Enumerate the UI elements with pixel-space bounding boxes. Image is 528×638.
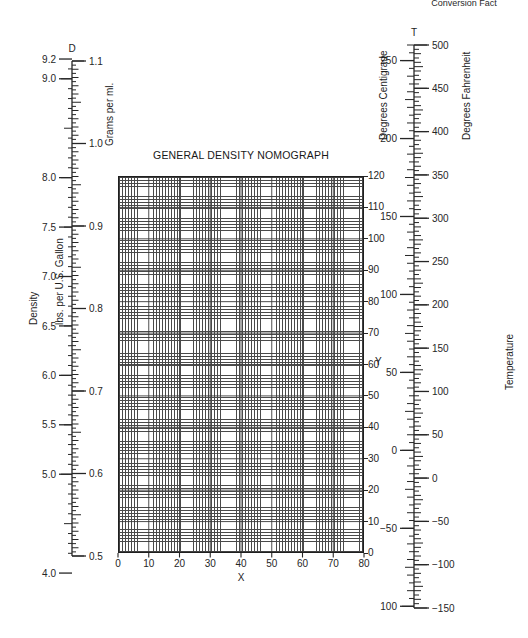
y-axis-tick: [364, 301, 368, 302]
scale-tick-label: 1.0: [89, 138, 103, 149]
scale-tick-label: 5.5: [42, 419, 56, 430]
scale-tick-label: 30: [205, 558, 217, 569]
scale-tick-label: 40: [235, 558, 247, 569]
y-axis-tick: [364, 238, 368, 239]
y-axis-tick-label: 20: [368, 485, 379, 495]
scale-tick-label: 0.7: [89, 386, 103, 397]
density-right-unit-label: Grams per ml.: [104, 83, 115, 146]
y-axis-tick: [364, 333, 368, 334]
y-axis-tick: [364, 364, 368, 365]
density-key-label: D: [60, 44, 84, 54]
scale-tick-label: 0.8: [89, 303, 103, 314]
scale-tick-label: −100: [432, 559, 455, 570]
scale-tick-label: 10: [143, 558, 155, 569]
x-axis-label: X: [118, 573, 364, 583]
scale-tick-label: 0: [432, 473, 438, 484]
scale-tick-label: 0: [115, 558, 121, 569]
scale-tick-label: 50: [432, 429, 444, 440]
scale-tick-label: 9.2: [42, 54, 56, 65]
scale-tick-label: 200: [432, 299, 449, 310]
scale-tick-label: 6.0: [42, 370, 56, 381]
scale-tick-label: −100: [380, 601, 397, 612]
y-axis-tick: [364, 521, 368, 522]
y-axis-tick: [364, 427, 368, 428]
y-axis-tick-label: 80: [368, 297, 379, 307]
scale-tick-label: 450: [432, 83, 449, 94]
density-axis-label: Density: [28, 292, 39, 325]
scale-tick-label: 1.1: [89, 56, 103, 67]
scale-tick-label: 150: [432, 343, 449, 354]
scale-tick-label: 0.6: [89, 468, 103, 479]
plot-grid[interactable]: [118, 176, 364, 553]
scale-tick-label: 0.9: [89, 221, 103, 232]
scale-tick-label: 50: [266, 558, 278, 569]
y-axis-tick: [364, 395, 368, 396]
y-axis-tick-label: 30: [368, 454, 379, 464]
scale-tick-label: 300: [432, 213, 449, 224]
scale-tick-label: 250: [432, 256, 449, 267]
y-axis-tick-label: 10: [368, 517, 379, 527]
scale-tick-label: 100: [432, 386, 449, 397]
y-axis-tick: [364, 553, 368, 554]
scale-tick-label: 0: [391, 445, 397, 456]
density-left-unit-label: lbs. per U.S. Gallon: [54, 238, 65, 325]
y-axis-tick: [364, 207, 368, 208]
scale-tick-label: 60: [297, 558, 309, 569]
y-axis-tick-label: 40: [368, 422, 379, 432]
scale-tick-label: 80: [358, 558, 370, 569]
scale-tick-label: 4.0: [42, 568, 56, 579]
temperature-left-unit-label: Degrees Centigrade: [378, 51, 389, 141]
scale-tick-label: 150: [380, 211, 397, 222]
y-axis-tick-label: 70: [368, 328, 379, 338]
scale-tick-label: 9.0: [42, 73, 56, 84]
y-axis-tick: [364, 458, 368, 459]
scale-tick-label: −50: [380, 523, 397, 534]
scale-tick-label: 70: [328, 558, 340, 569]
scale-tick-label: 8.0: [42, 172, 56, 183]
temperature-key-label: T: [402, 28, 426, 38]
scale-tick-label: 7.5: [42, 222, 56, 233]
y-axis-tick-label: 90: [368, 265, 379, 275]
scale-tick-label: 5.0: [42, 469, 56, 480]
scale-tick-label: 350: [432, 170, 449, 181]
y-axis-tick-label: 50: [368, 391, 379, 401]
scale-tick-label: 500: [432, 40, 449, 51]
y-axis-tick: [364, 176, 368, 177]
scale-tick-label: 50: [386, 367, 398, 378]
running-head: Conversion Fact: [400, 0, 528, 7]
scale-tick-label: 400: [432, 126, 449, 137]
y-axis-tick: [364, 490, 368, 491]
nomograph-page: Conversion Fact 0.50.60.70.80.91.01.14.0…: [0, 0, 528, 638]
temperature-scale-svg: −150−100−5005010015020025030035040045050…: [380, 30, 510, 630]
y-axis-tick-label: 0: [368, 548, 374, 558]
scale-tick-label: 20: [174, 558, 186, 569]
temperature-axis-label: Temperature: [504, 334, 515, 390]
scale-tick-label: 100: [380, 289, 397, 300]
scale-tick-label: −150: [432, 603, 455, 614]
temperature-right-unit-label: Degrees Fahrenheit: [461, 52, 472, 140]
y-axis-tick: [364, 270, 368, 271]
chart-title: GENERAL DENSITY NOMOGRAPH: [118, 149, 364, 161]
scale-tick-label: −50: [432, 516, 449, 527]
